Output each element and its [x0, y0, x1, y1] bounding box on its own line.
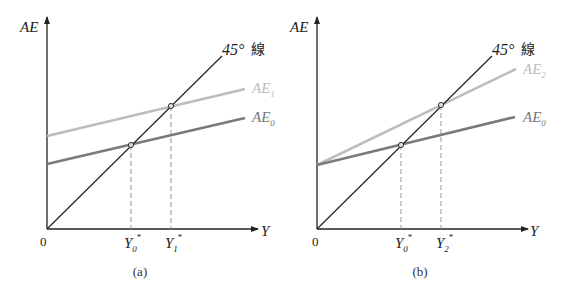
line-45-label: 45°: [222, 41, 245, 58]
line-45: [47, 56, 222, 229]
y-axis-label: AE: [289, 19, 308, 35]
tick-y2: Y2*: [436, 232, 454, 254]
line-45: [317, 56, 492, 229]
ae1-label: AE1: [251, 80, 275, 99]
panel-caption-a: (a): [133, 264, 147, 279]
origin-label: 0: [312, 234, 319, 249]
ae1-line: [47, 89, 245, 136]
tick-y1: Y1*: [165, 232, 183, 254]
line-45-label: 45°: [492, 41, 515, 58]
ae0-label: AE0: [251, 109, 275, 128]
equilibrium-point-e0: [398, 142, 403, 147]
panel-b: AE Y 0 45° 線 AE2 AE0 Y0* Y2* (b): [289, 17, 546, 279]
line-45-suffix: 線: [521, 41, 535, 57]
y-axis-label: AE: [19, 19, 38, 35]
ae0-line: [317, 117, 515, 165]
tick-y0: Y0*: [395, 232, 413, 254]
tick-y0: Y0*: [124, 232, 142, 254]
line-45-suffix: 線: [251, 41, 265, 57]
ae2-label: AE2: [522, 61, 546, 80]
equilibrium-point-e0: [128, 142, 133, 147]
origin-label: 0: [40, 234, 47, 249]
panel-caption-b: (b): [412, 264, 427, 279]
panel-a: AE Y 0 45° 線 AE1 AE0 Y0* Y1* (a): [19, 17, 275, 279]
equilibrium-point-e2: [438, 102, 443, 107]
keynesian-cross-figure: AE Y 0 45° 線 AE1 AE0 Y0* Y1* (a) AE Y 0 …: [0, 0, 561, 301]
equilibrium-point-e1: [168, 103, 173, 108]
ae2-line: [317, 69, 516, 165]
x-axis-label: Y: [530, 223, 540, 239]
x-axis-label: Y: [261, 223, 271, 239]
ae0-label: AE0: [522, 109, 546, 128]
ae0-line: [47, 118, 245, 164]
